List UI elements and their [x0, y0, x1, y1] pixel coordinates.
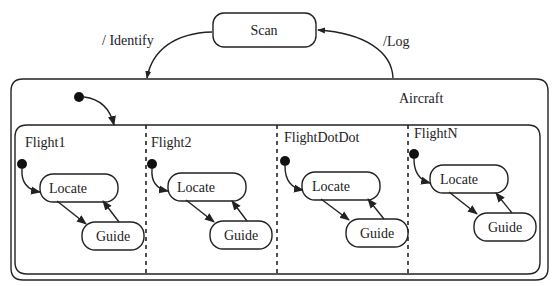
region-flight2-label: Flight2 [151, 135, 191, 150]
initial-pseudostate-aircraft [74, 92, 84, 102]
state-guide[interactable]: Guide [82, 222, 144, 250]
region-flight2: Flight2 Locate Guide [147, 135, 272, 249]
transition-locate-to-guide[interactable] [449, 192, 477, 214]
transition-guide-to-locate[interactable] [368, 199, 384, 219]
state-guide[interactable]: Guide [474, 213, 536, 241]
initial-transition [152, 169, 168, 191]
initial-transition [285, 166, 303, 190]
state-locate-label: Locate [440, 172, 478, 187]
region-flightn: FlightN Locate Guide [409, 126, 536, 241]
state-locate[interactable]: Locate [168, 173, 246, 201]
initial-transition [22, 169, 40, 192]
state-guide[interactable]: Guide [346, 219, 408, 247]
state-scan[interactable]: Scan [213, 13, 316, 47]
state-locate-label: Locate [312, 179, 350, 194]
state-scan-label: Scan [250, 23, 277, 38]
state-guide[interactable]: Guide [210, 221, 272, 249]
state-locate[interactable]: Locate [302, 172, 380, 200]
transition-guide-to-locate[interactable] [496, 193, 512, 213]
initial-transition-aircraft [84, 97, 114, 125]
transition-log[interactable] [318, 30, 393, 78]
transition-locate-to-guide[interactable] [57, 201, 86, 224]
region-flight1-label: Flight1 [25, 135, 65, 150]
region-flightdotdot-label: FlightDotDot [284, 130, 360, 145]
state-guide-label: Guide [96, 229, 130, 244]
region-flight1: Flight1 Locate Guide [17, 135, 144, 250]
transition-identify-label: / Identify [102, 33, 154, 48]
state-guide-label: Guide [488, 220, 522, 235]
transition-locate-to-guide[interactable] [321, 199, 349, 220]
state-aircraft-label: Aircraft [399, 91, 443, 106]
initial-pseudostate [147, 159, 157, 169]
transition-guide-to-locate[interactable] [103, 201, 119, 222]
initial-transition [414, 159, 430, 183]
region-flightn-label: FlightN [414, 126, 458, 141]
initial-pseudostate [17, 159, 27, 169]
state-locate[interactable]: Locate [430, 165, 508, 193]
transition-locate-to-guide[interactable] [186, 200, 214, 222]
state-locate-label: Locate [49, 181, 87, 196]
transition-log-label: /Log [383, 34, 409, 49]
state-locate[interactable]: Locate [40, 174, 118, 202]
initial-pseudostate [280, 156, 290, 166]
region-flightdotdot: FlightDotDot Locate Guide [280, 130, 408, 247]
transition-guide-to-locate[interactable] [232, 201, 247, 221]
transition-identify[interactable] [147, 32, 212, 78]
initial-pseudostate [409, 149, 419, 159]
state-guide-label: Guide [224, 228, 258, 243]
statechart-canvas: Scan / Identify /Log Aircraft Flight1 Lo… [0, 0, 554, 286]
state-guide-label: Guide [360, 226, 394, 241]
state-locate-label: Locate [177, 180, 215, 195]
